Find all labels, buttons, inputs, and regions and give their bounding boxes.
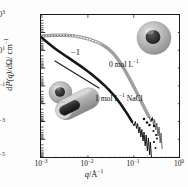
series-1-label: 1 mol L−1 NaCl	[95, 95, 143, 103]
x-tick-label: 10−2	[80, 160, 93, 167]
y-tick-label: 10−5	[0, 153, 5, 160]
series-0-label: 0 mol L−1	[109, 61, 139, 69]
x-axis-minor-ticks	[42, 156, 180, 158]
series-1-oscillation-tail	[132, 122, 151, 158]
x-tick-label: 100	[174, 160, 184, 167]
slope-guide-label: −1	[71, 47, 80, 57]
sans-scattering-figure: 103 101 10−1 10−3 10−5 10−3 10−2 10−1 10…	[0, 0, 188, 187]
inset-core-shell-sphere-large	[137, 22, 171, 55]
x-tick-label: 10−3	[34, 160, 47, 167]
x-axis-label: q/Å−1	[0, 170, 188, 179]
plot-canvas	[41, 15, 180, 158]
x-tick-label: 10−1	[126, 160, 139, 167]
plot-area: 0 mol L−1 1 mol L−1 NaCl −1	[40, 14, 180, 158]
y-axis-label: dP(q)/dΩ/ cm−1	[5, 0, 14, 130]
